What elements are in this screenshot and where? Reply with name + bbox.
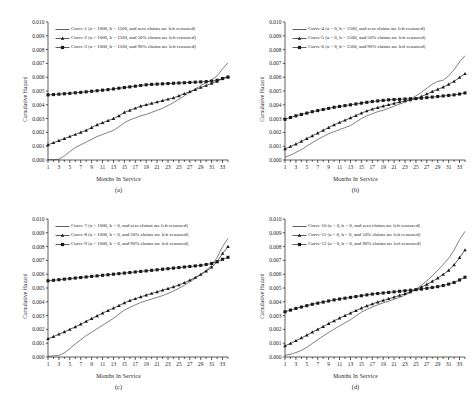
line-marker-icon	[292, 222, 307, 231]
panel-d: 0.0000.0010.0020.0030.0040.0050.0060.007…	[237, 197, 474, 394]
svg-text:25: 25	[176, 164, 182, 170]
svg-text:11: 11	[100, 361, 105, 367]
svg-text:19: 19	[380, 361, 386, 367]
panel-b-label: (b)	[237, 186, 474, 193]
svg-text:31: 31	[446, 164, 452, 170]
panel-c-label: (c)	[0, 383, 237, 390]
svg-text:31: 31	[446, 361, 452, 367]
panel-c-x-axis-title: Months In Service	[0, 373, 237, 379]
svg-text:0.010: 0.010	[269, 216, 281, 222]
svg-text:33: 33	[220, 164, 226, 170]
svg-text:0.004: 0.004	[32, 102, 44, 108]
svg-text:0.001: 0.001	[32, 340, 44, 346]
svg-text:25: 25	[176, 361, 182, 367]
svg-text:21: 21	[154, 164, 160, 170]
panel-d-legend-item: Curve-11 (a = 0, b = 0, and 50% claims a…	[292, 231, 421, 240]
panel-d-legend-label: Curve-12 (a = 0, b = 0, and 90% claims a…	[307, 241, 421, 248]
svg-text:7: 7	[79, 164, 82, 170]
svg-text:0.009: 0.009	[32, 230, 44, 236]
panel-c-legend-label: Curve-7 (a = 1000, b = 0, and zero claim…	[70, 223, 188, 230]
svg-text:23: 23	[165, 164, 171, 170]
panel-b-legend-label: Curve-5 (a = 0, b = 1500, and 50% claims…	[307, 35, 425, 42]
svg-text:21: 21	[391, 164, 397, 170]
svg-text:29: 29	[435, 164, 441, 170]
panel-b-x-axis-title: Months In Service	[237, 176, 474, 182]
square-marker-icon	[55, 240, 70, 249]
svg-text:33: 33	[220, 361, 226, 367]
svg-text:0.005: 0.005	[269, 88, 281, 94]
svg-text:17: 17	[370, 164, 376, 170]
svg-text:21: 21	[391, 361, 397, 367]
svg-text:0.008: 0.008	[32, 244, 44, 250]
svg-text:23: 23	[402, 361, 408, 367]
panel-a-legend-item: Curve-2 (a = 1000, b = 1500, and 50% cla…	[55, 34, 196, 43]
svg-text:0.003: 0.003	[269, 116, 281, 122]
svg-text:19: 19	[380, 164, 386, 170]
panel-a-legend-item: Curve-1 (a = 1000, b = 1500, and zero cl…	[55, 25, 196, 34]
svg-text:33: 33	[457, 361, 463, 367]
svg-text:0.003: 0.003	[32, 313, 44, 319]
svg-text:7: 7	[79, 361, 82, 367]
svg-text:19: 19	[143, 361, 149, 367]
svg-text:13: 13	[348, 164, 354, 170]
svg-text:0.002: 0.002	[269, 129, 281, 135]
panel-d-y-axis-title: Cumulative Hazard	[259, 273, 265, 318]
svg-text:0.010: 0.010	[32, 19, 44, 25]
svg-text:13: 13	[348, 361, 354, 367]
panel-b: 0.0000.0010.0020.0030.0040.0050.0060.007…	[237, 0, 474, 197]
panel-a: 0.0000.0010.0020.0030.0040.0050.0060.007…	[0, 0, 237, 197]
panel-b-legend-item: Curve-6 (a = 0, b = 1500, and 90% claims…	[292, 43, 425, 52]
panel-b-legend-item: Curve-5 (a = 0, b = 1500, and 50% claims…	[292, 34, 425, 43]
svg-text:0.006: 0.006	[269, 271, 281, 277]
svg-text:15: 15	[359, 361, 365, 367]
svg-text:0.007: 0.007	[32, 257, 44, 263]
svg-text:15: 15	[122, 164, 128, 170]
svg-text:11: 11	[337, 361, 342, 367]
figure-cumulative-hazard-panels: 0.0000.0010.0020.0030.0040.0050.0060.007…	[0, 0, 474, 394]
svg-text:9: 9	[90, 361, 93, 367]
panel-d-legend-item: Curve-10 (a = 0, b = 0, and zero claims …	[292, 222, 421, 231]
svg-text:0.010: 0.010	[32, 216, 44, 222]
svg-text:0.009: 0.009	[32, 33, 44, 39]
svg-text:7: 7	[316, 164, 319, 170]
svg-text:0.007: 0.007	[32, 60, 44, 66]
svg-text:19: 19	[143, 164, 149, 170]
svg-text:0.001: 0.001	[269, 143, 281, 149]
panel-a-legend-label: Curve-2 (a = 1000, b = 1500, and 50% cla…	[70, 35, 196, 42]
panel-a-label: (a)	[0, 186, 237, 193]
svg-text:0.000: 0.000	[269, 157, 281, 163]
svg-text:5: 5	[305, 361, 308, 367]
svg-text:13: 13	[111, 164, 117, 170]
svg-text:0.004: 0.004	[32, 299, 44, 305]
svg-text:0.003: 0.003	[269, 313, 281, 319]
svg-text:11: 11	[100, 164, 105, 170]
square-marker-icon	[292, 43, 307, 52]
svg-text:23: 23	[402, 164, 408, 170]
svg-text:0.005: 0.005	[32, 285, 44, 291]
svg-text:0.002: 0.002	[32, 326, 44, 332]
svg-text:0.008: 0.008	[269, 244, 281, 250]
svg-text:3: 3	[58, 164, 61, 170]
svg-text:3: 3	[295, 361, 298, 367]
panel-d-x-axis-title: Months In Service	[237, 373, 474, 379]
svg-text:0.000: 0.000	[269, 354, 281, 360]
svg-text:1: 1	[47, 361, 50, 367]
svg-text:15: 15	[122, 361, 128, 367]
square-marker-icon	[55, 43, 70, 52]
panel-b-legend-item: Curve-4 (a = 0, b = 1500, and zero claim…	[292, 25, 425, 34]
svg-text:0.004: 0.004	[269, 102, 281, 108]
triangle-marker-icon	[292, 231, 307, 240]
svg-text:27: 27	[424, 164, 430, 170]
svg-text:33: 33	[457, 164, 463, 170]
svg-text:0.001: 0.001	[269, 340, 281, 346]
svg-text:0.001: 0.001	[32, 143, 44, 149]
svg-text:0.009: 0.009	[269, 230, 281, 236]
panel-a-legend: Curve-1 (a = 1000, b = 1500, and zero cl…	[55, 25, 196, 52]
panel-b-legend-label: Curve-6 (a = 0, b = 1500, and 90% claims…	[307, 44, 425, 51]
panel-d-legend: Curve-10 (a = 0, b = 0, and zero claims …	[292, 222, 421, 249]
panel-c-y-axis-title: Cumulative Hazard	[22, 273, 28, 318]
svg-text:9: 9	[327, 361, 330, 367]
panel-a-legend-label: Curve-3 (a = 1000, b = 1500, and 90% cla…	[70, 44, 196, 51]
svg-text:31: 31	[209, 164, 215, 170]
panel-d-label: (d)	[237, 383, 474, 390]
